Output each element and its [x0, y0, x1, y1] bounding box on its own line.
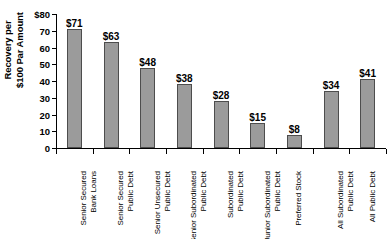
x-category-label-line: Subordinated — [226, 171, 236, 239]
bar-value-label: $15 — [249, 112, 266, 123]
bar: $71 — [67, 29, 82, 148]
y-tick — [52, 48, 56, 49]
y-axis-line — [56, 14, 57, 149]
x-tick — [313, 149, 314, 154]
y-tick — [52, 115, 56, 116]
bar: $48 — [140, 68, 155, 148]
bar: $41 — [360, 79, 375, 148]
y-tick-label: 60 — [16, 42, 50, 53]
x-category-label: Senior SecuredPublic Debt — [116, 171, 138, 239]
bar-value-label: $71 — [66, 18, 83, 29]
x-tick — [276, 149, 277, 154]
y-tick — [52, 14, 56, 15]
x-tick — [56, 149, 57, 154]
x-category-label: All Public Debt — [368, 171, 390, 239]
bar-value-label: $34 — [323, 80, 340, 91]
x-category-label: SubordinatedPublic Debt — [226, 171, 248, 239]
bar-chart: Recovery per $100 Par Amount $8070605040… — [0, 0, 392, 239]
x-axis-line — [56, 148, 386, 149]
x-tick — [239, 149, 240, 154]
bar-value-label: $48 — [139, 57, 156, 68]
x-tick — [166, 149, 167, 154]
y-tick — [52, 31, 56, 32]
x-tick — [129, 149, 130, 154]
x-category-label-line: All Public Debt — [368, 171, 378, 239]
y-tick — [52, 98, 56, 99]
bar-value-label: $28 — [213, 90, 230, 101]
y-tick — [52, 131, 56, 132]
x-category-label-line: Public Debt — [163, 171, 173, 239]
y-tick-label: 20 — [16, 109, 50, 120]
x-category-label-line: Preferred Stock — [294, 171, 304, 239]
plot-area: $80706050403020100 $71$63$48$38$28$15$8$… — [56, 14, 386, 149]
x-category-label: Junior SubordinatedPublic Debt — [263, 171, 285, 239]
y-tick — [52, 81, 56, 82]
x-category-label: Senior SubordinatedPublic Debt — [189, 171, 211, 239]
x-category-label-line: All Subordinated — [336, 171, 346, 239]
x-tick — [386, 149, 387, 154]
x-category-label-line: Senior Unsecured — [153, 171, 163, 239]
x-category-label: Senior UnsecuredPublic Debt — [153, 171, 175, 239]
bar: $8 — [287, 135, 302, 148]
bar: $34 — [324, 91, 339, 148]
y-tick — [52, 64, 56, 65]
x-category-label-line: Bank Loans — [89, 171, 99, 239]
x-tick — [203, 149, 204, 154]
x-category-label-line: Senior Secured — [79, 171, 89, 239]
bar: $28 — [214, 101, 229, 148]
x-category-label-line: Public Debt — [126, 171, 136, 239]
y-axis-title-line-1: Recovery per — [2, 0, 14, 110]
y-tick-label: 70 — [16, 25, 50, 36]
y-tick-label: 40 — [16, 76, 50, 87]
y-tick-label: 10 — [16, 126, 50, 137]
bar-value-label: $63 — [103, 31, 120, 42]
x-category-label-line: Public Debt — [346, 171, 356, 239]
bar: $38 — [177, 84, 192, 148]
y-tick-label: 50 — [16, 59, 50, 70]
y-tick-label: 30 — [16, 92, 50, 103]
bar: $63 — [104, 42, 119, 148]
y-tick-label: $80 — [16, 9, 50, 20]
x-tick — [349, 149, 350, 154]
bar: $15 — [250, 123, 265, 148]
x-category-label: All SubordinatedPublic Debt — [336, 171, 358, 239]
x-category-label-line: Senior Secured — [116, 171, 126, 239]
x-tick — [93, 149, 94, 154]
x-category-label-line: Public Debt — [236, 171, 246, 239]
bar-value-label: $8 — [289, 124, 300, 135]
bar-value-label: $41 — [359, 68, 376, 79]
bar-value-label: $38 — [176, 73, 193, 84]
x-category-label-line: Public Debt — [273, 171, 283, 239]
x-category-label-line: Senior Subordinated — [189, 171, 199, 239]
x-category-label: Preferred Stock — [294, 171, 316, 239]
x-category-label-line: Public Debt — [199, 171, 209, 239]
x-category-label-line: Junior Subordinated — [263, 171, 273, 239]
x-category-label: Senior SecuredBank Loans — [79, 171, 101, 239]
y-tick-label: 0 — [16, 143, 50, 154]
